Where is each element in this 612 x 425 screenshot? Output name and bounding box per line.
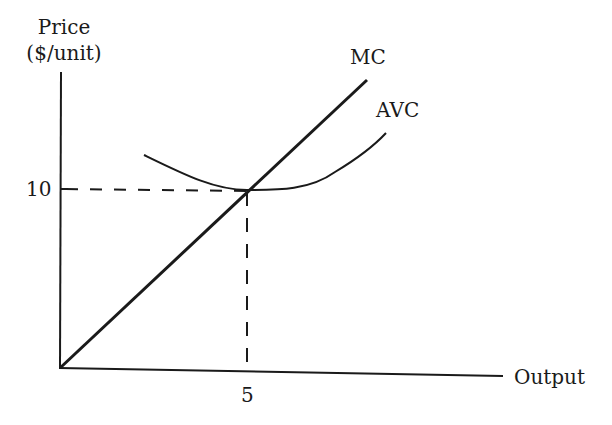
y-tick-label-10: 10 — [26, 179, 51, 199]
dashed-guide-horizontal — [66, 189, 246, 191]
y-axis-label: Price ($/unit) — [8, 14, 120, 66]
y-axis — [60, 72, 61, 368]
cost-curve-diagram: Price ($/unit) MC AVC 10 5 Output — [0, 0, 612, 425]
y-axis-label-line1: Price — [8, 14, 120, 40]
mc-label: MC — [350, 47, 386, 67]
x-tick-label-5: 5 — [241, 385, 254, 405]
x-axis-label: Output — [514, 367, 585, 387]
avc-curve — [144, 133, 386, 190]
y-axis-label-line2: ($/unit) — [8, 40, 120, 66]
avc-label: AVC — [376, 100, 419, 120]
x-axis — [59, 368, 503, 376]
mc-curve — [60, 80, 367, 368]
